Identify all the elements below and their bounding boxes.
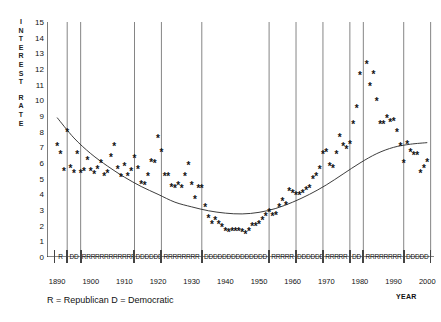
y-axis-tick-label: 10: [30, 96, 44, 105]
data-point-marker: *: [308, 183, 312, 194]
x-axis-tick-label: 1950: [251, 277, 268, 286]
y-axis-tick-label: 8: [30, 127, 44, 136]
data-point-marker: *: [106, 168, 110, 179]
y-axis-tick-label: 9: [30, 112, 44, 121]
data-point-marker: *: [351, 119, 355, 130]
data-point-marker: *: [358, 70, 362, 81]
data-point-marker: *: [72, 168, 76, 179]
data-point-marker: *: [365, 59, 369, 70]
data-point-marker: *: [200, 183, 204, 194]
data-point-marker: *: [203, 202, 207, 213]
data-point-marker: *: [156, 133, 160, 144]
data-point-marker: *: [146, 171, 150, 182]
data-point-marker: *: [355, 103, 359, 114]
party-band-democratic: DD: [67, 250, 80, 263]
data-point-marker: *: [415, 150, 419, 161]
x-axis-tick-label: 1930: [183, 277, 200, 286]
party-band-republican: RRRRRRRR: [363, 250, 403, 263]
x-axis-tick-label: 1970: [318, 277, 335, 286]
party-band-republican: RRRRRRRR: [161, 250, 201, 263]
data-point-marker: *: [368, 81, 372, 92]
data-point-marker: *: [112, 141, 116, 152]
y-axis-title-letter: E: [13, 120, 29, 129]
party-band-democratic: DDDDDD: [134, 250, 161, 263]
data-point-marker: *: [334, 149, 338, 160]
party-band-republican: RRRRR: [269, 250, 296, 263]
data-point-marker: *: [75, 149, 79, 160]
data-point-marker: *: [193, 194, 197, 205]
chart-figure: INTERESTRATE 0123456789101112131415 ****…: [0, 0, 441, 322]
party-band-democratic: DDDDDDDDDDDDDD: [202, 250, 269, 263]
data-point-marker: *: [136, 164, 140, 175]
y-axis-tick-label: 4: [30, 190, 44, 199]
x-axis-tick-labels: 1890190019101920193019401950196019701980…: [0, 277, 441, 291]
data-point-marker: *: [425, 157, 429, 168]
data-point-marker: *: [62, 166, 66, 177]
party-band-democratic: DDDDD: [404, 250, 431, 263]
data-point-marker: *: [133, 153, 137, 164]
data-point-marker: *: [395, 127, 399, 138]
party-band-row: RDDRRRRRRRRRRRRDDDDDDRRRRRRRRDDDDDDDDDDD…: [47, 250, 434, 263]
data-point-marker: *: [109, 152, 113, 163]
y-axis-title-letter: I: [13, 18, 29, 27]
y-axis-title: INTERESTRATE: [13, 18, 29, 128]
x-axis-tick-label: 1920: [150, 277, 167, 286]
party-band-republican: R: [54, 250, 67, 263]
y-axis-tick-label: 14: [30, 33, 44, 42]
y-axis-tick-label: 13: [30, 49, 44, 58]
y-axis-title-letter: E: [13, 61, 29, 70]
data-point-marker: *: [59, 149, 63, 160]
scatter-plot-svg: ****************************************…: [47, 22, 434, 257]
data-point-marker: *: [318, 164, 322, 175]
party-band-republican: RRRRRRRRRRRR: [81, 250, 135, 263]
data-point-marker: *: [398, 141, 402, 152]
data-point-marker: *: [159, 147, 163, 158]
x-axis-tick-label: 2000: [419, 277, 436, 286]
data-point-marker: *: [324, 147, 328, 158]
x-axis-tick-label: 1980: [352, 277, 369, 286]
scatter-series: ****************************************…: [55, 22, 429, 240]
party-band-democratic: DDDDDD: [296, 250, 323, 263]
data-point-marker: *: [284, 200, 288, 211]
data-point-marker: *: [402, 158, 406, 169]
data-point-marker: *: [190, 180, 194, 191]
y-axis-title-letter: T: [13, 111, 29, 120]
x-axis-tick-label: 1940: [217, 277, 234, 286]
legend-party-key: R = Republican D = Democratic: [47, 295, 174, 305]
data-point-marker: *: [129, 166, 133, 177]
y-axis-title-letter: S: [13, 70, 29, 79]
y-axis-tick-label: 5: [30, 174, 44, 183]
data-point-marker: *: [119, 172, 123, 183]
y-axis-tick-label: 2: [30, 221, 44, 230]
y-axis-tick-labels: 0123456789101112131415: [30, 0, 44, 322]
party-band-republican: RRRRR: [323, 250, 350, 263]
y-axis-title-letter: T: [13, 78, 29, 87]
y-axis-tick-label: 11: [30, 80, 44, 89]
data-point-marker: *: [371, 69, 375, 80]
y-axis-tick-label: 1: [30, 237, 44, 246]
party-band-democratic: DD: [350, 250, 363, 263]
data-point-marker: *: [180, 183, 184, 194]
plot-area: ****************************************…: [47, 22, 434, 257]
y-axis-tick-label: 3: [30, 206, 44, 215]
data-point-marker: *: [143, 180, 147, 191]
data-point-marker: *: [85, 155, 89, 166]
y-axis-tick-label: 0: [30, 253, 44, 262]
data-point-marker: *: [183, 171, 187, 182]
x-axis-title: YEAR: [396, 293, 417, 300]
data-point-marker: *: [82, 166, 86, 177]
x-axis-tick-label: 1890: [49, 277, 66, 286]
x-axis-tick-label: 1910: [116, 277, 133, 286]
y-axis-title-letter: R: [13, 52, 29, 61]
data-point-marker: *: [348, 139, 352, 150]
data-point-marker: *: [99, 158, 103, 169]
y-axis-title-letter: R: [13, 94, 29, 103]
trend-line: [57, 118, 427, 214]
y-axis-tick-label: 15: [30, 18, 44, 27]
data-point-marker: *: [186, 160, 190, 171]
y-axis-title-letter: E: [13, 44, 29, 53]
y-axis-title-letter: T: [13, 35, 29, 44]
y-axis-title-letter: A: [13, 102, 29, 111]
x-axis-tick-label: 1960: [284, 277, 301, 286]
y-axis-tick-label: 7: [30, 143, 44, 152]
